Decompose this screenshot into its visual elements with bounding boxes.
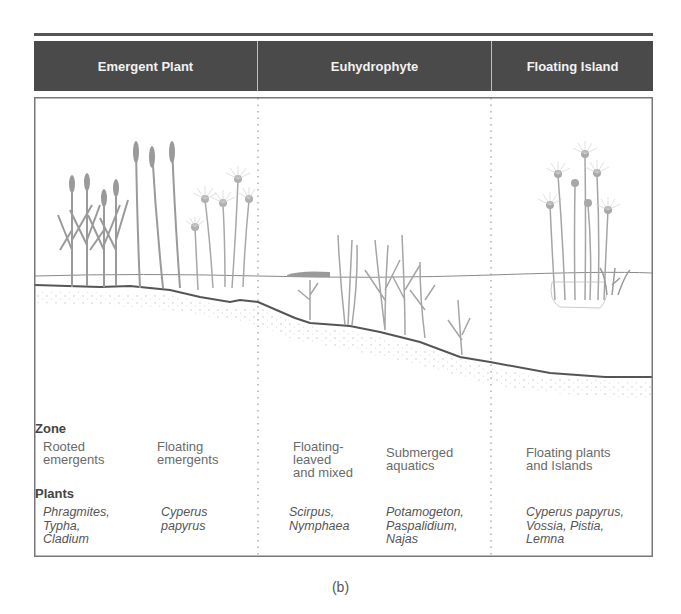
plants-floating-islands: Cyperus papyrus, Vossia, Pistia, Lemna [526, 506, 624, 547]
water-surface-line [35, 272, 652, 277]
zone-floating-plants-islands: Floating plants and Islands [526, 446, 611, 472]
zone-submerged-aquatics: Submerged aquatics [386, 446, 453, 472]
island-papyrus-umbels [538, 141, 620, 210]
plants-rooted-emergents: Phragmites, Typha, Cladium [43, 506, 110, 547]
papyrus-heads [191, 175, 253, 231]
zone-rooted-emergents: Rooted emergents [43, 440, 104, 466]
zone-floating-leaved-mixed: Floating- leaved and mixed [293, 440, 353, 479]
cattail-plants [136, 145, 180, 288]
plants-submerged: Potamogeton, Paspalidium, Najas [386, 506, 464, 547]
plants-label: Plants [35, 486, 74, 501]
island-papyrus-heads [546, 150, 612, 214]
zone-floating-emergents: Floating emergents [157, 440, 218, 466]
papyrus-umbels [186, 166, 255, 227]
reed-seedheads [69, 173, 119, 207]
figure-caption: (b) [0, 579, 681, 595]
floating-leaf [287, 271, 330, 277]
zone-label: Zone [35, 421, 66, 436]
plants-floating-leaved: Scirpus, Nymphaea [289, 506, 349, 533]
plants-floating-emergents: Cyperus papyrus [161, 506, 208, 533]
